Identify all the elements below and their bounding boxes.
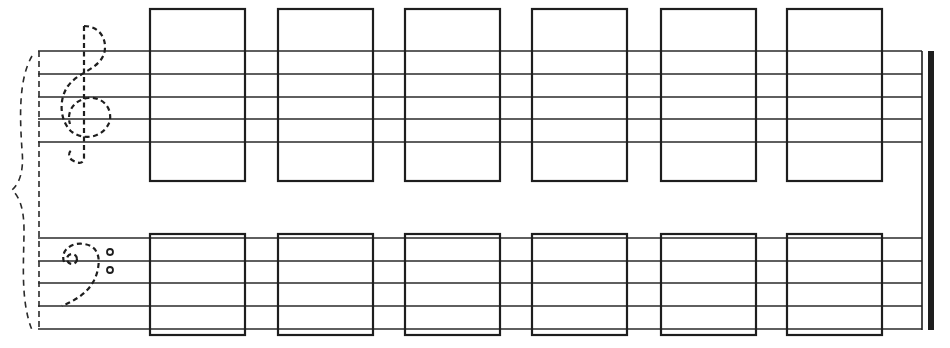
- bass-clef-icon: [62, 244, 113, 306]
- answer-boxes: [150, 9, 882, 335]
- final-barline-thick: [928, 51, 934, 330]
- bass-answer-box-5[interactable]: [661, 234, 756, 335]
- treble-answer-box-2[interactable]: [278, 9, 373, 181]
- bass-answer-box-6[interactable]: [787, 234, 882, 335]
- treble-answer-box-5[interactable]: [661, 9, 756, 181]
- bass-answer-box-2[interactable]: [278, 234, 373, 335]
- grand-staff: [0, 0, 950, 348]
- treble-staff: [38, 51, 922, 142]
- treble-answer-box-3[interactable]: [405, 9, 500, 181]
- bass-answer-box-4[interactable]: [532, 234, 627, 335]
- brace-icon: [12, 56, 32, 330]
- treble-answer-box-1[interactable]: [150, 9, 245, 181]
- bass-answer-box-1[interactable]: [150, 234, 245, 335]
- treble-answer-box-4[interactable]: [532, 9, 627, 181]
- bass-staff: [38, 238, 922, 329]
- bass-answer-box-3[interactable]: [405, 234, 500, 335]
- worksheet-page: [0, 0, 950, 348]
- treble-answer-box-6[interactable]: [787, 9, 882, 181]
